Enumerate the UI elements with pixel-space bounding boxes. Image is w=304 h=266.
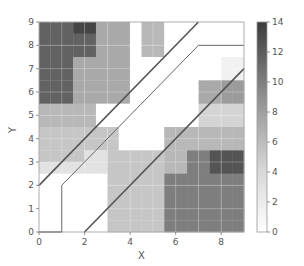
heatmap-cell [187, 209, 199, 221]
heatmap-cell [187, 185, 199, 197]
heatmap-cell [187, 220, 199, 232]
heatmap-cell [50, 197, 62, 209]
heatmap-cell [233, 57, 245, 69]
heatmap-cell [62, 209, 74, 221]
y-tick-label: 0 [28, 227, 34, 237]
heatmap-cell [73, 150, 85, 162]
heatmap-cell [210, 139, 222, 151]
heatmap-cell [187, 174, 199, 186]
heatmap-cell [198, 22, 210, 34]
heatmap-cell [107, 209, 119, 221]
heatmap-cell [107, 69, 119, 81]
heatmap-cell [142, 127, 154, 139]
heatmap-cell [142, 45, 154, 57]
heatmap-cell [221, 92, 233, 104]
heatmap-cell [96, 197, 108, 209]
y-tick-label: 8 [28, 40, 34, 50]
heatmap-cell [119, 150, 131, 162]
heatmap-cell [107, 45, 119, 57]
heatmap-cell [221, 220, 233, 232]
colorbar-tick-label: 12 [272, 47, 283, 57]
heatmap-cell [96, 22, 108, 34]
heatmap-cell [130, 92, 142, 104]
heatmap-cell [210, 57, 222, 69]
heatmap-cell [130, 69, 142, 81]
heatmap-cell [187, 127, 199, 139]
y-tick-label: 6 [28, 87, 34, 97]
heatmap-cell [210, 45, 222, 57]
heatmap-cell [198, 34, 210, 46]
heatmap-cell [233, 34, 245, 46]
heatmap-cell [164, 80, 176, 92]
heatmap-cell [85, 185, 97, 197]
heatmap-cell [164, 22, 176, 34]
heatmap-cell [233, 115, 245, 127]
heatmap-cell [164, 220, 176, 232]
heatmap-cell [153, 115, 165, 127]
heatmap-cell [96, 45, 108, 57]
heatmap-cell [176, 80, 188, 92]
heatmap-cell [62, 115, 74, 127]
heatmap-cell [119, 69, 131, 81]
heatmap-cell [39, 150, 51, 162]
heatmap-cell [119, 139, 131, 151]
heatmap-cell [210, 115, 222, 127]
colorbar-tick-label: 0 [272, 227, 278, 237]
y-tick-label: 7 [28, 64, 34, 74]
heatmap-cell [107, 162, 119, 174]
heatmap-cell [210, 104, 222, 116]
heatmap-cell [198, 92, 210, 104]
heatmap-cell [130, 45, 142, 57]
heatmap-cell [39, 80, 51, 92]
heatmap-cell [233, 80, 245, 92]
heatmap-cell [96, 150, 108, 162]
heatmap-cell [39, 115, 51, 127]
heatmap-cell [62, 69, 74, 81]
heatmap-cell [210, 80, 222, 92]
heatmap-cell [62, 162, 74, 174]
heatmap-cell [153, 162, 165, 174]
heatmap-cell [187, 34, 199, 46]
heatmap-cell [233, 139, 245, 151]
heatmap-cell [153, 45, 165, 57]
heatmap-cell [187, 150, 199, 162]
heatmap-cell [50, 69, 62, 81]
heatmap-cell [119, 209, 131, 221]
heatmap-cell [142, 150, 154, 162]
heatmap-cell [187, 92, 199, 104]
heatmap-cell [233, 185, 245, 197]
heatmap-cell [221, 45, 233, 57]
heatmap-cell [50, 139, 62, 151]
heatmap-cell [142, 57, 154, 69]
heatmap-cell [233, 22, 245, 34]
y-tick-label: 5 [28, 110, 34, 120]
heatmap-cell [130, 34, 142, 46]
x-axis-ticks: 02468 [36, 232, 224, 247]
heatmap-cell [62, 127, 74, 139]
heatmap-cell [96, 220, 108, 232]
heatmap-cell [210, 34, 222, 46]
heatmap-cell [142, 115, 154, 127]
heatmap-cell [142, 185, 154, 197]
heatmap-cell [62, 34, 74, 46]
heatmap-cell [176, 92, 188, 104]
heatmap-cell [176, 174, 188, 186]
heatmap-cell [198, 127, 210, 139]
colorbar-tick-label: 4 [272, 167, 278, 177]
heatmap-cell [164, 127, 176, 139]
heatmap-cell [96, 162, 108, 174]
heatmap-cell [164, 174, 176, 186]
heatmap-cell [73, 197, 85, 209]
heatmap-cell [176, 115, 188, 127]
heatmap-cell [39, 22, 51, 34]
heatmap-cell [210, 220, 222, 232]
heatmap-cell [187, 57, 199, 69]
heatmap-cell [130, 115, 142, 127]
heatmap-cell [198, 115, 210, 127]
heatmap-chart: 02468 0123456789 X Y 02468101214 [0, 0, 304, 266]
heatmap-cell [176, 220, 188, 232]
heatmap-cell [164, 185, 176, 197]
heatmap-cell [142, 22, 154, 34]
heatmap-cell [85, 139, 97, 151]
heatmap-cell [119, 174, 131, 186]
